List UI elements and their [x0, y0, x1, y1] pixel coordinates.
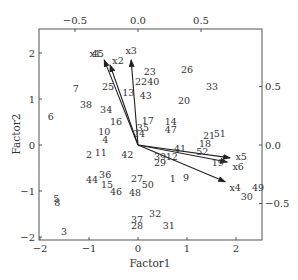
x-tick-label: −1	[82, 243, 97, 254]
y-tick-label: 1	[29, 94, 35, 105]
top-tick-label: 0.0	[130, 15, 146, 26]
point-label: 6	[48, 111, 54, 122]
point-label: 47	[165, 124, 177, 135]
point-label: 51	[214, 128, 226, 139]
point-label: 45	[92, 48, 104, 59]
point-label: 39	[154, 151, 166, 162]
y-tick-label: −2	[20, 232, 35, 243]
point-label: 13	[122, 87, 134, 98]
point-label: 44	[86, 174, 98, 185]
right-tick-label: −0.5	[265, 198, 289, 209]
point-label: 25	[102, 81, 114, 92]
point-label: 9	[183, 172, 189, 183]
point-label: 36	[99, 169, 111, 180]
point-label: 7	[73, 83, 79, 94]
x-tick-label: 1	[184, 243, 190, 254]
point-label: 37	[131, 214, 143, 225]
point-label: 16	[110, 116, 122, 127]
x-tick-label: −2	[33, 243, 48, 254]
y-tick-label: −1	[20, 186, 35, 197]
x-tick-label: 0	[135, 243, 141, 254]
point-label: 52	[196, 146, 208, 157]
point-label: 26	[181, 64, 193, 75]
observation-labels: 1234567891011121314151617181920212223242…	[48, 48, 264, 237]
point-label: 41	[174, 143, 186, 154]
point-label: 38	[80, 99, 92, 110]
point-label: 43	[140, 90, 152, 101]
biplot-chart: −2−1012 −2−1012 −0.50.00.5 0.50.0−0.5 x1…	[0, 0, 298, 280]
vector-label: x4	[230, 182, 241, 193]
point-label: 46	[110, 186, 122, 197]
point-label: 35	[137, 122, 149, 133]
right-tick-label: 0.0	[265, 140, 281, 151]
y-axis-label: Factor2	[10, 114, 22, 155]
point-label: 20	[178, 95, 190, 106]
point-label: 50	[142, 179, 154, 190]
point-label: 19	[212, 157, 224, 168]
x-tick-label: 2	[233, 243, 239, 254]
point-label: 31	[163, 220, 175, 231]
top-tick-label: 0.5	[193, 15, 209, 26]
y-tick-label: 2	[29, 48, 35, 59]
point-label: 10	[98, 126, 110, 137]
point-label: 40	[147, 76, 159, 87]
point-label: 8	[54, 197, 60, 208]
right-tick-label: 0.5	[265, 81, 281, 92]
point-label: 30	[241, 191, 253, 202]
point-label: 48	[129, 187, 141, 198]
vector-label: x2	[112, 55, 123, 66]
vector-label: x6	[232, 161, 243, 172]
point-label: 3	[61, 226, 67, 237]
point-label: 49	[252, 182, 264, 193]
point-label: 32	[149, 208, 161, 219]
point-label: 42	[121, 149, 133, 160]
x-axis-label: Factor1	[130, 257, 171, 269]
point-label: 2	[86, 149, 92, 160]
top-tick-label: −0.5	[63, 15, 87, 26]
y-tick-label: 0	[29, 140, 35, 151]
point-label: 34	[100, 104, 112, 115]
point-label: 1	[170, 173, 176, 184]
vector-label: x3	[125, 45, 136, 56]
point-label: 33	[206, 81, 218, 92]
point-label: 11	[95, 147, 107, 158]
